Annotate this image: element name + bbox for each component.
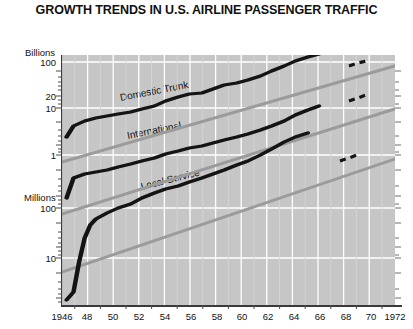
y-axis-minor-ticks: [56, 71, 62, 302]
gridlines-group: [62, 55, 395, 305]
trend-line-local-service: [62, 158, 398, 272]
series-line-international: [67, 106, 319, 198]
chart-graphics: [0, 0, 413, 329]
chart-root: GROWTH TRENDS IN U.S. AIRLINE PASSENGER …: [0, 0, 413, 329]
y-axis-right-minor-ticks: [395, 71, 401, 298]
series-group: [62, 54, 398, 300]
series-dash-local-service: [340, 155, 357, 161]
series-line-local-service: [67, 133, 308, 300]
trend-line-international: [62, 108, 398, 214]
series-dash-international: [349, 95, 366, 101]
x-axis-minor-ticks: [75, 305, 382, 309]
